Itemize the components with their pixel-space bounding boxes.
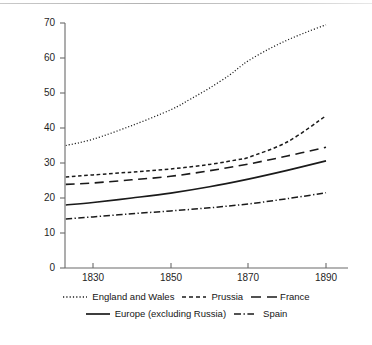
legend-swatch-long-dashed-icon [250, 292, 276, 302]
series-line-spain [66, 193, 326, 219]
legend-label-prussia: Prussia [211, 291, 243, 302]
legend-swatch-dashed-icon [181, 292, 207, 302]
legend-label-france: France [280, 291, 310, 302]
y-axis-ticks [60, 23, 65, 268]
data-series-layer [66, 25, 326, 219]
x-axis-ticks [93, 263, 326, 268]
legend-entry-europe-excluding-russia[interactable]: Europe (excluding Russia) [85, 308, 226, 319]
legend-label-england-and-wales: England and Wales [92, 291, 174, 302]
legend-entry-england-and-wales[interactable]: England and Wales [62, 291, 174, 302]
legend-row-2: Europe (excluding Russia) Spain [0, 305, 372, 322]
legend-row-1: England and Wales Prussia France [0, 288, 372, 305]
legend-swatch-dash-dot-icon [233, 309, 259, 319]
series-line-prussia [66, 116, 326, 177]
legend-swatch-solid-icon [85, 309, 111, 319]
legend-entry-prussia[interactable]: Prussia [181, 291, 243, 302]
series-line-england-and-wales [66, 25, 326, 146]
legend-label-europe-excluding-russia: Europe (excluding Russia) [115, 308, 226, 319]
series-line-europe-excluding-russia [66, 161, 326, 205]
chart-legend: England and Wales Prussia France Euro [0, 288, 372, 322]
legend-entry-france[interactable]: France [250, 291, 310, 302]
legend-entry-spain[interactable]: Spain [233, 308, 287, 319]
legend-swatch-dotted-icon [62, 292, 88, 302]
chart-figure: Percentage of population defined as 'urb… [0, 0, 372, 345]
legend-label-spain: Spain [263, 308, 287, 319]
